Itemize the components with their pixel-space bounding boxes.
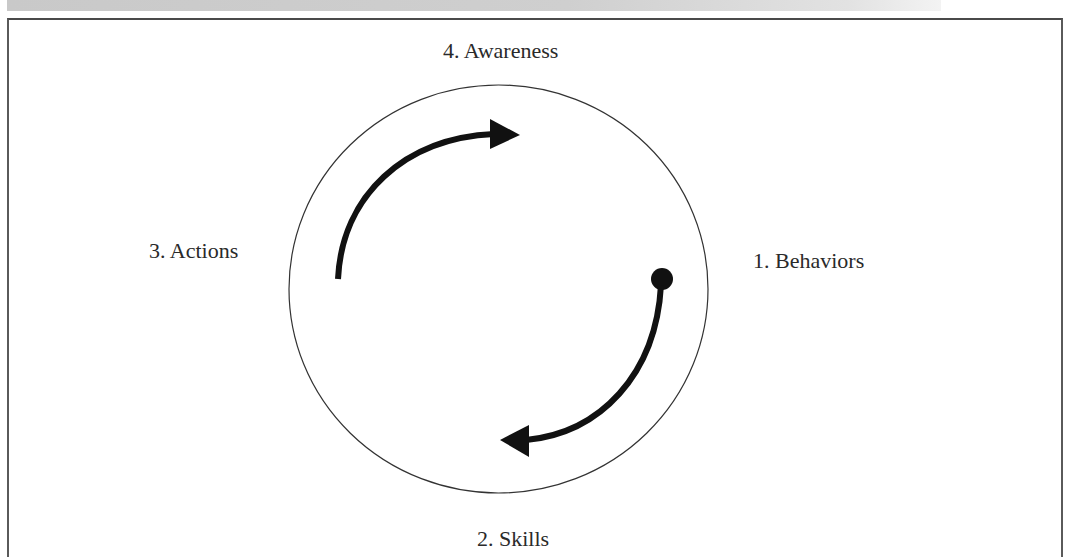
- arrowhead-icon: [490, 119, 520, 149]
- stage-label-behaviors: 1. Behaviors: [753, 250, 864, 272]
- cycle-diagram: [0, 0, 1069, 557]
- arrow-actions-to-awareness: [338, 119, 520, 279]
- stage-label-actions: 3. Actions: [149, 240, 238, 262]
- stage-label-skills: 2. Skills: [477, 528, 549, 550]
- arrow-behaviors-to-skills: [500, 268, 673, 457]
- arrowhead-icon: [500, 425, 529, 457]
- stage-label-awareness: 4. Awareness: [443, 40, 558, 62]
- arrow-shaft: [526, 285, 661, 440]
- arrow-shaft: [338, 134, 494, 279]
- diagram-canvas: 4. Awareness 3. Actions 1. Behaviors 2. …: [0, 0, 1069, 557]
- cycle-circle: [289, 85, 708, 493]
